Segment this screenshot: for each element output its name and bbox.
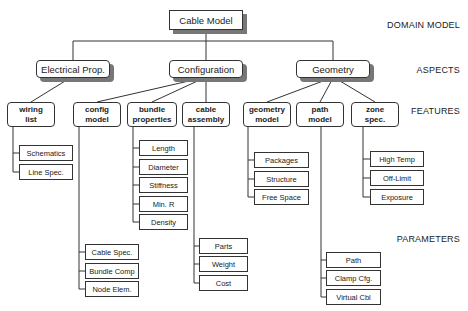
feature-label-line2: model <box>308 115 332 124</box>
param-label: Structure <box>266 175 296 184</box>
param-label: Parts <box>215 242 233 251</box>
feature-node-zone-spec[interactable]: zonespec. <box>351 102 399 127</box>
param-label: Clamp Cfg. <box>335 274 373 283</box>
feature-label-line2: assembly <box>188 115 224 124</box>
feature-label-line2: model <box>255 115 279 124</box>
feature-label-line1: path <box>312 105 329 114</box>
feature-node-config-model[interactable]: configmodel <box>73 102 121 127</box>
param-node[interactable]: Node Elem. <box>85 281 139 297</box>
param-node[interactable]: Path <box>326 252 381 268</box>
param-node[interactable]: Structure <box>254 171 309 187</box>
param-node[interactable]: Exposure <box>370 189 424 205</box>
param-node[interactable]: Density <box>139 214 188 230</box>
aspect-label: Configuration <box>178 64 235 75</box>
root-label: Cable Model <box>179 15 232 26</box>
param-node[interactable]: Off-Limit <box>370 170 424 186</box>
feature-label-line2: model <box>85 115 109 124</box>
param-node[interactable]: Cost <box>199 275 248 291</box>
level-label-domain-model: DOMAIN MODEL <box>387 20 460 30</box>
param-label: Schematics <box>27 149 66 158</box>
feature-label-line1: geometry <box>249 105 285 114</box>
aspect-node-geometry[interactable]: Geometry <box>296 60 370 78</box>
level-label-parameters: PARAMETERS <box>397 234 460 244</box>
param-label: Length <box>152 144 175 153</box>
aspect-label: Electrical Prop. <box>41 64 105 75</box>
param-label: Diameter <box>148 163 178 172</box>
feature-label-line2: spec. <box>365 115 385 124</box>
feature-node-geometry-model[interactable]: geometrymodel <box>243 102 291 127</box>
feature-label-line1: config <box>85 105 109 114</box>
param-label: Min. R <box>153 200 175 209</box>
feature-label-line2: properties <box>132 115 171 124</box>
param-node[interactable]: Packages <box>254 152 309 168</box>
param-node[interactable]: Min. R <box>139 196 188 212</box>
level-label-aspects: ASPECTS <box>417 65 460 75</box>
feature-node-cable-assembly[interactable]: cableassembly <box>182 102 230 127</box>
param-node[interactable]: Diameter <box>139 159 188 175</box>
param-node[interactable]: Line Spec. <box>19 164 73 180</box>
param-node[interactable]: High Temp <box>370 151 424 167</box>
param-node[interactable]: Length <box>139 140 188 156</box>
param-label: Density <box>151 218 176 227</box>
param-label: Path <box>346 256 361 265</box>
param-node[interactable]: Parts <box>199 238 248 254</box>
param-node[interactable]: Schematics <box>19 145 73 161</box>
param-label: High Temp <box>379 155 415 164</box>
feature-label-line1: cable <box>196 105 216 114</box>
param-label: Exposure <box>381 193 413 202</box>
feature-label-line1: wiring <box>19 105 43 114</box>
feature-node-wiring-list[interactable]: wiringlist <box>7 102 55 127</box>
param-node[interactable]: Weight <box>199 256 248 272</box>
param-node[interactable]: Bundle Comp <box>85 263 139 279</box>
param-label: Node Elem. <box>92 285 131 294</box>
param-node[interactable]: Virtual Cbl <box>326 289 381 305</box>
param-node[interactable]: Stiffness <box>139 177 188 193</box>
aspect-node-electrical-prop[interactable]: Electrical Prop. <box>36 60 110 78</box>
aspect-node-configuration[interactable]: Configuration <box>169 60 243 78</box>
param-node[interactable]: Clamp Cfg. <box>326 270 381 286</box>
param-label: Bundle Comp <box>89 267 134 276</box>
feature-label-line2: list <box>25 115 37 124</box>
param-label: Packages <box>265 156 298 165</box>
feature-label-line1: zone <box>366 105 384 114</box>
param-node[interactable]: Cable Spec. <box>85 244 139 260</box>
param-label: Stiffness <box>149 181 178 190</box>
param-node[interactable]: Free Space <box>254 189 309 205</box>
param-label: Cable Spec. <box>92 248 133 257</box>
level-label-features: FEATURES <box>411 106 460 116</box>
param-label: Off-Limit <box>383 174 411 183</box>
param-label: Cost <box>216 279 231 288</box>
feature-node-bundle-properties[interactable]: bundleproperties <box>127 102 177 127</box>
feature-label-line1: bundle <box>139 105 165 114</box>
aspect-label: Geometry <box>312 64 354 75</box>
feature-node-path-model[interactable]: pathmodel <box>296 102 344 127</box>
param-label: Virtual Cbl <box>336 293 370 302</box>
param-label: Line Spec. <box>28 168 63 177</box>
param-label: Weight <box>212 260 235 269</box>
root-node-cable-model[interactable]: Cable Model <box>169 10 243 30</box>
param-label: Free Space <box>262 193 301 202</box>
